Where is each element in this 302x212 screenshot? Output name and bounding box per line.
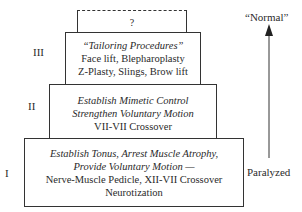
level-3-numeral: III — [33, 46, 44, 58]
level-2-numeral: II — [28, 100, 35, 112]
level-1-goal-2: Provide Voluntary Motion — — [25, 160, 243, 173]
level-1-goal-1: Establish Tonus, Arrest Muscle Atrophy, — [25, 147, 243, 160]
level-3-line-1: Face lift, Blepharoplasty — [66, 52, 200, 65]
level-3-box: “Tailoring Procedures” Face lift, Blepha… — [65, 32, 201, 85]
level-2-goal-1: Establish Mimetic Control — [50, 94, 216, 107]
level-2-line-1: VII-VII Crossover — [50, 120, 216, 133]
level-3-heading: “Tailoring Procedures” — [66, 39, 200, 52]
level-1-box: Establish Tonus, Arrest Muscle Atrophy, … — [24, 138, 244, 207]
level-1-line-1: Nerve-Muscle Pedicle, XII-VII Crossover — [25, 173, 243, 186]
unknown-level-label: ? — [78, 11, 186, 29]
level-2-goal-2: Strengthen Voluntary Motion — [50, 107, 216, 120]
normal-label: “Normal” — [245, 11, 288, 23]
arrow-up-icon — [262, 24, 276, 158]
level-3-line-2: Z-Plasty, Slings, Brow lift — [66, 65, 200, 78]
level-2-box: Establish Mimetic Control Strengthen Vol… — [49, 84, 217, 139]
paralyzed-label: Paralyzed — [247, 166, 290, 178]
unknown-level-box: ? — [77, 10, 187, 33]
level-1-line-2: Neurotization — [25, 186, 243, 199]
level-1-numeral: I — [5, 167, 9, 179]
